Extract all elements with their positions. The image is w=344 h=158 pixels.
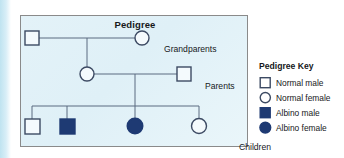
pedigree-key-legend: Pedigree Key Normal male Normal female A…: [259, 61, 344, 135]
legend-label-albino-female: Albino female: [276, 123, 327, 133]
individual-grandfather-open-square: [25, 31, 39, 45]
individual-child-3-filled-circle: [127, 118, 143, 134]
individual-child-4-open-circle: [192, 119, 207, 134]
left-accent-strip: [0, 0, 11, 158]
pedigree-figure: Pedigree: [0, 0, 344, 158]
open-square-icon: [259, 76, 272, 89]
generation-label-parents: Parents: [205, 81, 235, 91]
generation-label-children: Children: [239, 142, 271, 152]
individual-father-open-square: [177, 67, 191, 81]
pedigree-panel: Pedigree: [20, 15, 248, 147]
legend-row-albino-male: Albino male: [259, 105, 344, 120]
legend-label-normal-male: Normal male: [276, 78, 323, 88]
filled-circle-icon: [259, 121, 272, 134]
individual-child-2-filled-square: [60, 119, 75, 134]
individual-mother-open-circle: [80, 67, 94, 81]
generation-label-grandparents: Grandparents: [164, 44, 217, 54]
legend-label-normal-female: Normal female: [276, 93, 330, 103]
legend-label-albino-male: Albino male: [276, 108, 320, 118]
individual-grandmother-open-circle: [135, 31, 149, 45]
legend-row-albino-female: Albino female: [259, 120, 344, 135]
legend-title: Pedigree Key: [259, 61, 344, 71]
individual-child-1-open-square: [25, 119, 40, 134]
open-circle-icon: [259, 91, 272, 104]
filled-square-icon: [259, 106, 272, 119]
legend-row-normal-female: Normal female: [259, 90, 344, 105]
legend-row-normal-male: Normal male: [259, 75, 344, 90]
